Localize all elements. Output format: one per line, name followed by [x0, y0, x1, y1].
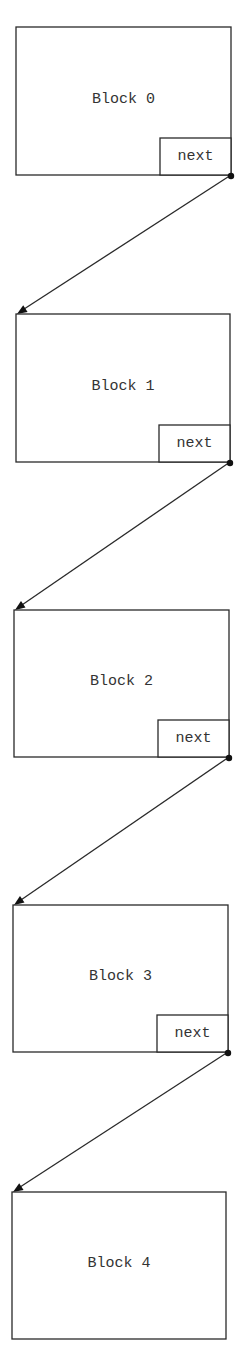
block-4: Block 4: [12, 1192, 226, 1339]
block-3: Block 3next: [13, 905, 231, 1056]
next-field: next: [159, 425, 230, 462]
pointer-origin-dot: [228, 173, 234, 179]
arrowhead-icon: [15, 601, 26, 610]
block-0: Block 0next: [16, 27, 234, 179]
next-field: next: [160, 138, 231, 175]
next-pointer-arrow: [14, 757, 229, 905]
linked-list-diagram: Block 0nextBlock 1nextBlock 2nextBlock 3…: [0, 0, 248, 1355]
pointer-line: [18, 757, 229, 902]
next-pointer-arrow: [17, 175, 231, 314]
pointer-origin-dot: [225, 1050, 231, 1056]
pointer-line: [17, 1052, 228, 1189]
next-field-label: next: [174, 1025, 210, 1042]
next-field-label: next: [176, 435, 212, 452]
arrowhead-icon: [13, 1183, 24, 1192]
pointer-line: [19, 462, 230, 607]
block-label: Block 2: [90, 673, 153, 690]
block-label: Block 1: [91, 378, 154, 395]
next-pointer-arrow: [13, 1052, 228, 1192]
pointer-origin-dot: [226, 755, 232, 761]
next-pointer-arrow: [15, 462, 230, 610]
pointer-line: [21, 175, 231, 311]
pointer-origin-dot: [227, 460, 233, 466]
block-label: Block 0: [92, 91, 155, 108]
arrowhead-icon: [14, 896, 25, 905]
next-field: next: [158, 720, 229, 757]
next-field: next: [157, 1015, 228, 1052]
arrowhead-icon: [17, 305, 28, 314]
block-label: Block 3: [89, 968, 152, 985]
next-field-label: next: [177, 148, 213, 165]
next-field-label: next: [175, 730, 211, 747]
block-label: Block 4: [87, 1255, 150, 1272]
block-1: Block 1next: [16, 314, 233, 466]
block-2: Block 2next: [14, 610, 232, 761]
